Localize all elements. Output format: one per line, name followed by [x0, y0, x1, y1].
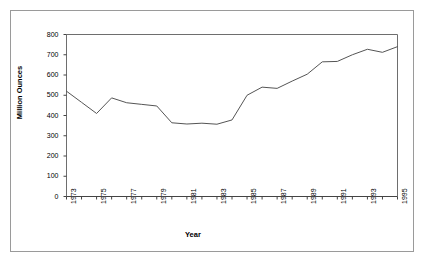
axis-frame [67, 35, 398, 197]
chart-figure: Million Ounces Year 01002003004005006007… [0, 0, 425, 264]
data-series-group [67, 47, 398, 125]
plot-area: Million Ounces Year 01002003004005006007… [0, 0, 425, 264]
chart-canvas [0, 0, 425, 264]
data-line-million-ounces [67, 47, 398, 125]
